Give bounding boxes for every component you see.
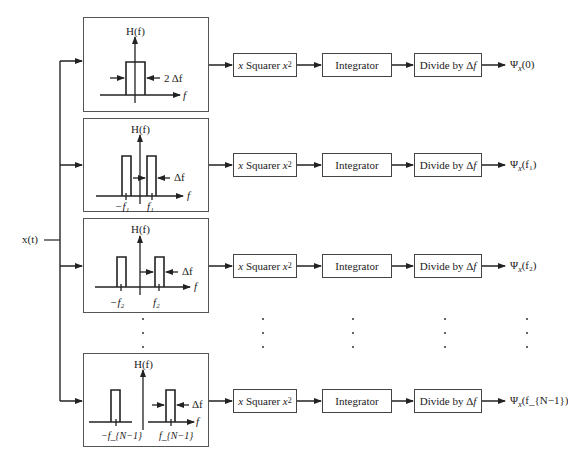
filter-n-1-axis-label: H(f) [134,359,153,370]
divider-text: Divide by Δ [420,59,474,71]
output-psi-1: Ψx(f₁) [510,159,537,170]
squarer-name: Squarer [246,395,280,407]
filter-n-1-pos-freq: f_{N−1} [159,431,193,441]
divider-block-n-1: Divide by Δf [414,389,482,413]
divider-block-2: Divide by Δf [414,254,482,278]
squarer-name: Squarer [246,159,280,171]
bandpass-filter-0 [83,17,209,112]
filter-1-bandwidth-label: Δf [174,172,185,183]
squarer-block-1: x Squarer x2 [233,153,297,177]
filter-0-bandwidth-label: 2 Δf [164,73,182,84]
psi-argument: (f₁) [522,158,537,170]
divider-var: f [473,395,476,407]
divider-block-0: Divide by Δf [414,53,482,77]
integrator-block-0: Integrator [322,53,392,77]
filter-2-neg-freq: −f₂ [110,297,124,308]
output-psi-0: Ψx(0) [510,59,535,70]
squarer-name: Squarer [246,59,280,71]
squarer-input-var: x [238,395,243,407]
psi-symbol: Ψ [510,58,518,70]
psi-symbol: Ψ [510,394,518,406]
filter-1-axis-label: H(f) [131,124,150,135]
filter-1-pos-freq: f₁ [147,201,154,212]
divider-var: f [473,159,476,171]
psi-argument: (0) [522,58,535,70]
filter-1-neg-freq: −f₁ [115,201,129,212]
psi-argument: (f_{N−1}) [522,394,568,406]
integrator-block-2: Integrator [322,254,392,278]
integrator-block-n-1: Integrator [322,389,392,413]
filter-n-1-neg-freq: −f_{N−1} [101,431,142,441]
squarer-block-n-1: x Squarer x2 [233,389,297,413]
divider-text: Divide by Δ [420,395,474,407]
squarer-input-var: x [238,59,243,71]
squarer-block-2: x Squarer x2 [233,254,297,278]
squarer-input-var: x [238,260,243,272]
divider-var: f [473,59,476,71]
output-psi-2: Ψx(f₂) [510,260,537,271]
divider-var: f [473,260,476,272]
filter-n-1-freq-axis-label: f [196,416,199,427]
filter-n-1-bandwidth-label: Δf [192,399,203,410]
filter-0-axis-label: H(f) [126,26,145,37]
squarer-name: Squarer [246,260,280,272]
divider-block-1: Divide by Δf [414,153,482,177]
output-psi-n-1: Ψx(f_{N−1}) [510,395,568,406]
filter-2-freq-axis-label: f [194,281,197,292]
integrator-block-1: Integrator [322,153,392,177]
divider-text: Divide by Δ [420,260,474,272]
input-signal-label: x(t) [22,234,38,245]
filter-1-freq-axis-label: f [187,190,190,201]
squarer-block-0: x Squarer x2 [233,53,297,77]
psi-argument: (f₂) [522,259,537,271]
squarer-input-var: x [238,159,243,171]
filter-0-freq-axis-label: f [183,90,186,101]
filter-2-bandwidth-label: Δf [182,266,193,277]
psi-symbol: Ψ [510,158,518,170]
filter-2-axis-label: H(f) [131,224,150,235]
filter-2-pos-freq: f₂ [153,297,160,308]
psi-symbol: Ψ [510,259,518,271]
divider-text: Divide by Δ [420,159,474,171]
